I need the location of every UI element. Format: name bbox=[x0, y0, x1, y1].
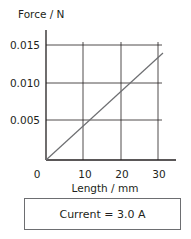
x-axis-label: Length / mm bbox=[72, 182, 139, 194]
y-tick-label: 0.010 bbox=[10, 77, 40, 89]
y-tick-label: 0.015 bbox=[10, 39, 40, 51]
x-tick-label: 30 bbox=[152, 168, 165, 180]
x-tick-label: 20 bbox=[115, 168, 128, 180]
x-tick-label: 0 bbox=[34, 168, 41, 180]
force-length-chart: Force / N 0.015 0.010 0.005 0 10 20 30 L… bbox=[0, 0, 191, 195]
y-axis-label: Force / N bbox=[18, 8, 64, 20]
x-tick-label: 10 bbox=[78, 168, 91, 180]
current-annotation-text: Current = 3.0 A bbox=[59, 208, 145, 221]
data-line bbox=[46, 53, 163, 160]
y-tick-label: 0.005 bbox=[10, 114, 40, 126]
current-annotation-box: Current = 3.0 A bbox=[24, 198, 181, 230]
